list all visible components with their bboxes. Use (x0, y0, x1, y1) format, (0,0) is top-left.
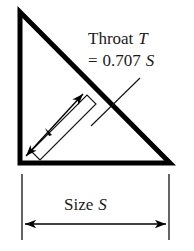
throat-leader-line (91, 78, 140, 126)
size-variable-s: S (98, 195, 107, 214)
throat-label-word: Throat (88, 29, 133, 48)
throat-band-outline (31, 95, 96, 160)
throat-label-line2: =0.707S (88, 52, 154, 69)
size-label-word: Size (64, 195, 93, 214)
leader-line-path (91, 78, 140, 126)
throat-variable-s: S (146, 51, 155, 70)
throat-band-path (31, 95, 96, 160)
throat-coefficient: 0.707 (103, 51, 141, 70)
throat-label-line1: ThroatT (88, 30, 148, 47)
throat-variable-t: T (138, 29, 147, 48)
equals-sign: = (88, 51, 98, 70)
size-label: SizeS (64, 196, 107, 213)
weld-throat-figure: ThroatT =0.707S SizeS (0, 0, 194, 251)
